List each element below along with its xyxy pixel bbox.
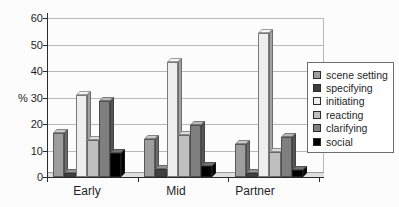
legend-item: initiating	[313, 95, 393, 108]
x-category-label-partner: Partner	[235, 184, 274, 198]
x-category-label-early: Early	[73, 184, 100, 198]
legend-swatch	[313, 97, 321, 105]
bar-chart: 0102030405060EarlyMidPartner % scene set…	[0, 0, 399, 207]
legend-swatch	[313, 84, 321, 92]
legend-label: specifying	[326, 82, 373, 94]
bar-scene-setting-early	[53, 133, 64, 177]
legend-label: initiating	[326, 95, 365, 107]
legend-swatch	[313, 124, 321, 132]
bar-reacting-early	[87, 140, 98, 177]
bar-clarifying-mid	[190, 125, 201, 177]
gridline	[47, 45, 323, 46]
bar-social-mid	[201, 166, 212, 177]
bar-initiating-mid	[167, 62, 178, 177]
legend-label: social	[326, 136, 353, 148]
legend-item: clarifying	[313, 122, 393, 135]
gridline	[47, 18, 323, 19]
legend-label: clarifying	[326, 122, 367, 134]
x-tick-mark	[138, 178, 139, 182]
bar-scene-setting-mid	[144, 139, 155, 177]
x-axis-line	[47, 177, 324, 178]
gridline	[47, 71, 323, 72]
bar-social-partner	[292, 170, 303, 177]
legend-item: reacting	[313, 108, 393, 121]
bar-clarifying-partner	[281, 137, 292, 177]
bar-reacting-partner	[269, 152, 280, 177]
bar-social-early	[110, 153, 121, 177]
legend-item: specifying	[313, 81, 393, 94]
legend-swatch	[313, 111, 321, 119]
legend-swatch	[313, 71, 321, 79]
y-tick-label: 0	[17, 171, 43, 183]
bar-specifying-mid	[155, 169, 166, 177]
legend-item: scene setting	[313, 68, 393, 81]
bar-scene-setting-partner	[235, 144, 246, 177]
x-tick-mark	[319, 178, 320, 182]
y-tick-label: 20	[17, 118, 43, 130]
bar-social-early-side-face	[121, 149, 125, 177]
legend-label: scene setting	[326, 69, 388, 81]
bar-initiating-early	[76, 95, 87, 177]
y-tick-label: 50	[17, 39, 43, 51]
legend-swatch	[313, 138, 321, 146]
x-tick-mark	[47, 178, 48, 182]
legend: scene settingspecifyinginitiatingreactin…	[307, 62, 394, 153]
y-tick-label: 40	[17, 65, 43, 77]
bar-reacting-mid	[178, 135, 189, 177]
y-axis-line	[47, 13, 48, 182]
bar-clarifying-early	[99, 101, 110, 177]
y-tick-label: 10	[17, 145, 43, 157]
legend-label: reacting	[326, 109, 363, 121]
bar-initiating-partner	[258, 33, 269, 177]
y-tick-label: 30	[17, 92, 43, 104]
x-tick-mark	[228, 178, 229, 182]
y-tick-label: 60	[17, 12, 43, 24]
x-category-label-mid: Mid	[166, 184, 185, 198]
legend-item: social	[313, 135, 393, 148]
